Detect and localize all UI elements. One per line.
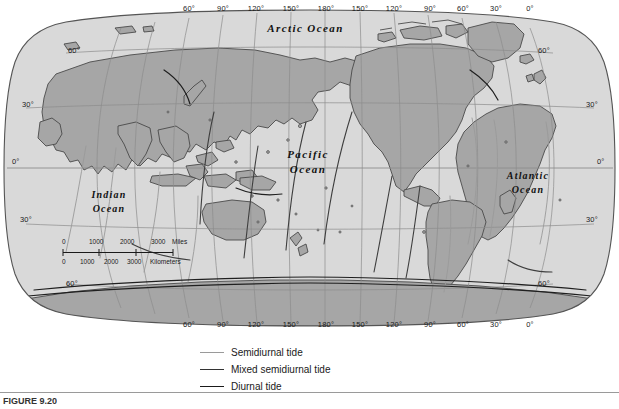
- lon-label-top-1: 90°: [213, 4, 233, 13]
- lat-label-right-0: 60°: [538, 46, 550, 55]
- lon-label-bottom-1: 90°: [213, 320, 233, 329]
- figure-page: 60°90°120°150°180°150°120°90°60°30°0° 60…: [0, 0, 619, 409]
- lat-label-left-4: 60°: [66, 279, 78, 288]
- mixed-semidiurnal-tide-swatch: [200, 369, 224, 370]
- lon-label-top-8: 60°: [453, 4, 473, 13]
- lon-label-bottom-0: 60°: [179, 320, 199, 329]
- lon-label-top-3: 150°: [281, 4, 301, 13]
- lon-label-top-4: 180°: [316, 4, 336, 13]
- semidiurnal-tide-label: Semidiurnal tide: [231, 344, 303, 361]
- lon-label-top-5: 150°: [350, 4, 370, 13]
- lat-label-left-0: 60°: [68, 46, 80, 55]
- lon-label-bottom-3: 150°: [281, 320, 301, 329]
- indian-ocean-line2: Ocean: [78, 203, 140, 214]
- scale-bar-miles-ticks: 0 1000 2000 3000 Miles: [62, 238, 180, 247]
- lat-label-left-3: 30°: [20, 215, 32, 224]
- lon-label-top-9: 30°: [486, 4, 506, 13]
- miles-tick-1000: 1000: [89, 238, 103, 245]
- atlantic-ocean-label: AtlanticOcean: [492, 170, 564, 195]
- indian-ocean-line1: Indian: [78, 189, 140, 200]
- pacific-ocean-line2: Ocean: [272, 163, 344, 175]
- figure-caption: FIGURE 9.20: [3, 396, 57, 409]
- arctic-ocean-line1: Arctic Ocean: [248, 22, 363, 34]
- lon-label-bottom-9: 30°: [486, 320, 506, 329]
- lat-label-left-2: 0°: [12, 157, 20, 166]
- lon-label-bottom-8: 60°: [453, 320, 473, 329]
- lon-label-bottom-6: 120°: [384, 320, 404, 329]
- miles-tick-3000: 3000: [151, 238, 165, 245]
- lat-label-right-2: 0°: [597, 157, 605, 166]
- km-tick-2000: 2000: [104, 258, 118, 265]
- tide-type-legend: Semidiurnal tideMixed semidiurnal tideDi…: [200, 344, 430, 395]
- lon-label-top-7: 90°: [420, 4, 440, 13]
- lon-label-bottom-7: 90°: [420, 320, 440, 329]
- atlantic-ocean-line2: Ocean: [492, 184, 564, 195]
- arctic-ocean-label: Arctic Ocean: [248, 22, 363, 34]
- lon-label-top-10: 0°: [520, 4, 540, 13]
- km-tick-3000: 3000: [127, 258, 141, 265]
- indian-ocean-label: IndianOcean: [78, 189, 140, 214]
- atlantic-ocean-line1: Atlantic: [492, 170, 564, 181]
- lat-label-right-4: 60°: [538, 279, 550, 288]
- diurnal-tide-swatch: [200, 386, 224, 387]
- scale-bar-km-ticks: 0 1000 2000 3000 Kilometers: [62, 258, 180, 267]
- miles-tick-0: 0: [62, 238, 66, 245]
- lon-label-bottom-2: 120°: [246, 320, 266, 329]
- lon-label-top-6: 120°: [384, 4, 404, 13]
- km-tick-1000: 1000: [80, 258, 94, 265]
- lon-label-bottom-10: 0°: [520, 320, 540, 329]
- miles-tick-2000: 2000: [120, 238, 134, 245]
- legend-item-mixed-semidiurnal-tide: Mixed semidiurnal tide: [200, 361, 430, 378]
- pacific-ocean-label: PacificOcean: [272, 148, 344, 175]
- pacific-ocean-line1: Pacific: [272, 148, 344, 160]
- lat-label-left-1: 30°: [22, 100, 34, 109]
- lon-label-top-0: 60°: [179, 4, 199, 13]
- mixed-semidiurnal-tide-label: Mixed semidiurnal tide: [231, 361, 331, 378]
- legend-item-semidiurnal-tide: Semidiurnal tide: [200, 344, 430, 361]
- km-tick-0: 0: [62, 258, 66, 265]
- miles-unit: Miles: [172, 238, 187, 245]
- lon-label-bottom-5: 150°: [350, 320, 370, 329]
- footer-divider: [0, 392, 619, 393]
- lon-label-top-2: 120°: [246, 4, 266, 13]
- lon-label-bottom-4: 180°: [316, 320, 336, 329]
- semidiurnal-tide-swatch: [200, 352, 224, 353]
- scale-bar-rule: [62, 249, 174, 256]
- australia-landmass: [202, 200, 266, 240]
- lat-label-right-3: 30°: [586, 215, 598, 224]
- scale-bar: 0 1000 2000 3000 Miles 0 1000 2000 3000 …: [62, 238, 180, 268]
- km-unit: Kilometers: [150, 258, 181, 265]
- lat-label-right-1: 30°: [586, 100, 598, 109]
- world-tide-map: 60°90°120°150°180°150°120°90°60°30°0° 60…: [0, 0, 619, 336]
